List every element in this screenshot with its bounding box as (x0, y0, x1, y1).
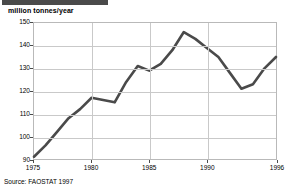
y-axis-tick-label: 130 (6, 65, 30, 72)
y-axis-tick-mark (30, 137, 33, 138)
source-note: Source: FAOSTAT 1997 (4, 178, 73, 186)
chart-figure: million tonnes/year 90100110120130140150… (0, 0, 288, 190)
y-axis-tick-label: 140 (6, 42, 30, 49)
gridline-vertical (208, 23, 209, 159)
y-axis-tick-label: 100 (6, 134, 30, 141)
gridline-horizontal (34, 138, 276, 139)
y-axis-tick-mark (30, 68, 33, 69)
y-axis-tick-mark (30, 45, 33, 46)
x-axis-tick-mark (91, 160, 92, 163)
x-axis-tick-mark (33, 160, 34, 163)
plot-area (33, 22, 277, 160)
gridline-horizontal (34, 69, 276, 70)
y-axis-tick-label: 110 (6, 111, 30, 118)
y-axis-tick-label: 150 (6, 19, 30, 26)
x-axis-tick-mark (277, 160, 278, 163)
gridline-horizontal (34, 92, 276, 93)
gridline-vertical (150, 23, 151, 159)
gridline-vertical (92, 23, 93, 159)
y-axis-tick-mark (30, 114, 33, 115)
y-axis-tick-mark (30, 22, 33, 23)
y-axis-tick-label: 90 (6, 157, 30, 164)
x-axis-tick-label: 1980 (76, 164, 106, 171)
gridline-horizontal (34, 115, 276, 116)
x-axis-tick-label: 1985 (134, 164, 164, 171)
y-axis-tick-label: 120 (6, 88, 30, 95)
y-axis-tick-labels: 90100110120130140150 (4, 0, 30, 190)
x-axis-tick-label: 1990 (192, 164, 222, 171)
x-axis-tick-mark (149, 160, 150, 163)
x-axis-tick-mark (207, 160, 208, 163)
x-axis-tick-label: 1996 (262, 164, 288, 171)
y-axis-tick-mark (30, 91, 33, 92)
gridline-horizontal (34, 46, 276, 47)
y-axis-tick-mark (30, 160, 33, 161)
x-axis-tick-label: 1975 (18, 164, 48, 171)
